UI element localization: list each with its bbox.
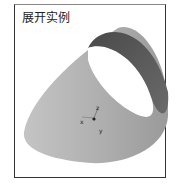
origin-marker — [92, 117, 95, 120]
x-axis-label: x — [80, 118, 84, 125]
z-axis-label: z — [96, 104, 99, 111]
y-axis-label: y — [99, 127, 103, 135]
truncated-cone-model: z x y — [0, 0, 184, 184]
